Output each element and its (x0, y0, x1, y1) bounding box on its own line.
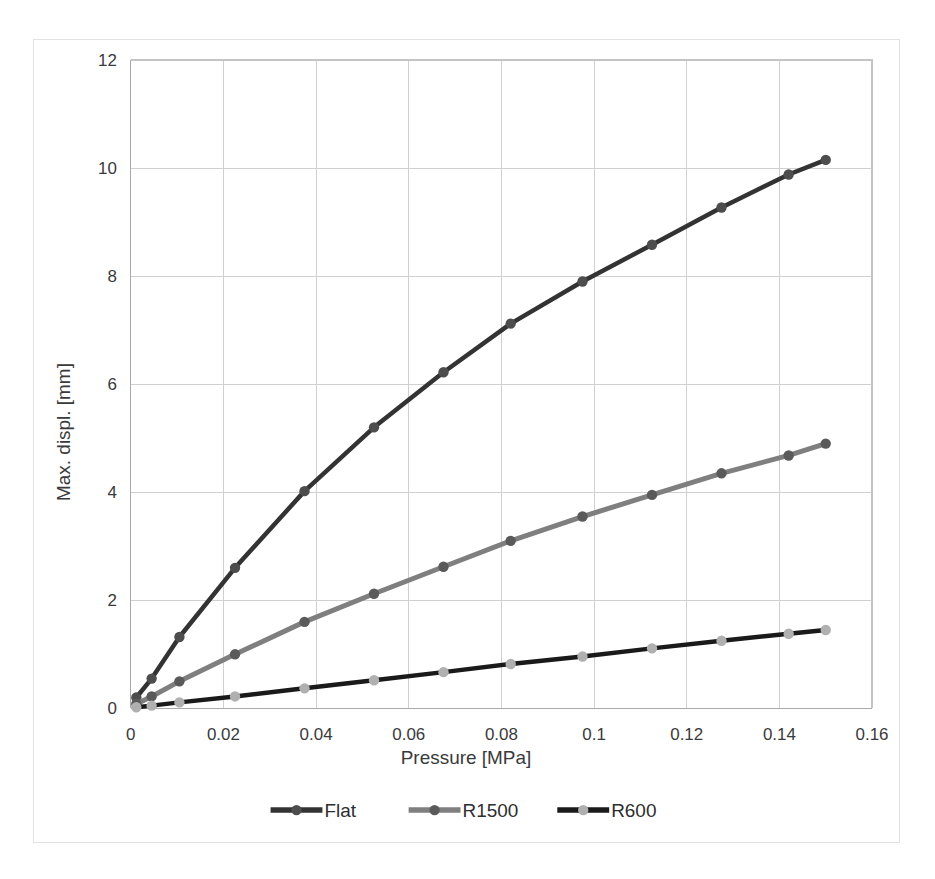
legend: FlatR1500R600 (271, 800, 657, 821)
legend-marker-swatch (429, 805, 439, 815)
x-tick-label: 0.02 (207, 725, 240, 744)
data-point-marker (438, 562, 448, 572)
legend-label: Flat (324, 800, 356, 821)
data-point-marker (647, 490, 657, 500)
data-point-marker (369, 675, 379, 685)
data-point-marker (299, 683, 309, 693)
x-axis-tick-labels: 00.020.040.060.080.10.120.140.16 (126, 725, 888, 744)
data-point-marker (146, 691, 156, 701)
y-tick-label: 8 (107, 267, 116, 286)
y-tick-label: 0 (107, 699, 116, 718)
line-chart: 00.020.040.060.080.10.120.140.16 0246810… (34, 40, 899, 842)
data-point-marker (174, 676, 184, 686)
data-point-marker (716, 202, 726, 212)
x-tick-label: 0 (126, 725, 135, 744)
series-r600 (131, 625, 831, 713)
data-point-marker (505, 659, 515, 669)
data-point-marker (821, 438, 831, 448)
data-point-marker (230, 563, 240, 573)
data-point-marker (783, 629, 793, 639)
legend-label: R600 (611, 800, 656, 821)
data-point-marker (299, 617, 309, 627)
data-point-marker (505, 318, 515, 328)
data-point-marker (369, 422, 379, 432)
series-line-r1500 (136, 444, 825, 704)
x-tick-label: 0.04 (300, 725, 333, 744)
x-tick-label: 0.08 (485, 725, 518, 744)
data-point-marker (369, 589, 379, 599)
data-point-marker (174, 697, 184, 707)
data-point-marker (438, 667, 448, 677)
y-tick-label: 12 (98, 51, 117, 70)
data-point-marker (577, 511, 587, 521)
legend-item-r600[interactable]: R600 (557, 800, 656, 821)
legend-label: R1500 (463, 800, 519, 821)
legend-item-r1500[interactable]: R1500 (409, 800, 519, 821)
data-point-marker (783, 450, 793, 460)
data-point-marker (647, 240, 657, 250)
legend-marker-swatch (578, 805, 588, 815)
data-point-marker (230, 649, 240, 659)
data-point-marker (577, 651, 587, 661)
x-tick-label: 0.06 (392, 725, 425, 744)
y-axis-title: Max. displ. [mm] (53, 363, 74, 501)
x-tick-label: 0.1 (582, 725, 606, 744)
legend-item-flat[interactable]: Flat (271, 800, 357, 821)
x-axis-title: Pressure [MPa] (401, 747, 532, 768)
series-line-flat (136, 160, 825, 698)
y-tick-label: 2 (107, 591, 116, 610)
x-tick-label: 0.12 (670, 725, 703, 744)
legend-marker-swatch (291, 805, 301, 815)
data-point-marker (821, 625, 831, 635)
data-point-marker (577, 276, 587, 286)
data-point-marker (821, 155, 831, 165)
chart-container: 00.020.040.060.080.10.120.140.16 0246810… (33, 39, 900, 843)
data-point-marker (174, 632, 184, 642)
series-flat (131, 155, 831, 703)
gridlines (131, 60, 872, 708)
y-axis-tick-labels: 024681012 (98, 51, 117, 718)
data-series (131, 155, 831, 713)
data-point-marker (505, 536, 515, 546)
y-tick-label: 4 (107, 483, 116, 502)
data-point-marker (438, 367, 448, 377)
data-point-marker (647, 643, 657, 653)
data-point-marker (131, 702, 141, 712)
data-point-marker (716, 636, 726, 646)
data-point-marker (783, 169, 793, 179)
y-tick-label: 6 (107, 375, 116, 394)
data-point-marker (146, 700, 156, 710)
x-tick-label: 0.14 (763, 725, 796, 744)
data-point-marker (299, 486, 309, 496)
data-point-marker (146, 673, 156, 683)
y-tick-label: 10 (98, 159, 117, 178)
data-point-marker (716, 468, 726, 478)
data-point-marker (230, 691, 240, 701)
x-tick-label: 0.16 (856, 725, 889, 744)
